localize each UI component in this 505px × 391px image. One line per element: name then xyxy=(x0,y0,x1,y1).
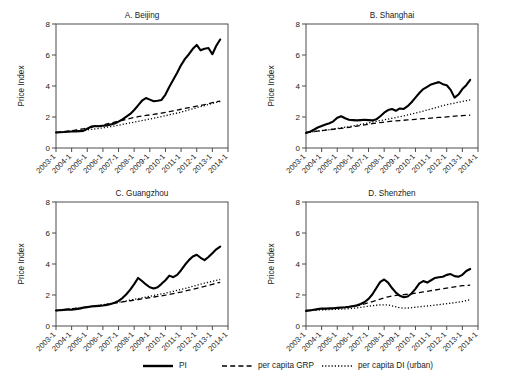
panel-title: D. Shenzhen xyxy=(368,189,416,198)
y-tick-label: 4 xyxy=(296,82,301,91)
panel-title: C. Guangzhou xyxy=(116,189,169,198)
y-tick-label: 6 xyxy=(46,51,51,60)
y-tick-label: 2 xyxy=(296,113,301,122)
y-tick-label: 2 xyxy=(46,291,51,300)
legend-grp-label: per capita GRP xyxy=(258,361,315,370)
panel-title: A. Beijing xyxy=(125,11,160,20)
panel-3: C. Guangzhou02468Price Index2003-12004-1… xyxy=(17,189,229,353)
y-tick-label: 0 xyxy=(46,144,51,153)
y-tick-label: 4 xyxy=(46,82,51,91)
panel-2: B. Shanghai02468Price Index2003-12004-12… xyxy=(267,11,479,175)
panel-title: B. Shanghai xyxy=(370,11,415,20)
y-tick-label: 2 xyxy=(46,113,51,122)
y-tick-label: 2 xyxy=(296,291,301,300)
chart-legend: PIper capita GRPper capita DI (urban) xyxy=(143,361,433,370)
y-tick-label: 6 xyxy=(296,229,301,238)
y-tick-label: 0 xyxy=(46,322,51,331)
series-line-dashed xyxy=(306,285,470,310)
series-line-dashed xyxy=(306,115,470,132)
series-line-solid xyxy=(56,247,220,311)
y-tick-label: 6 xyxy=(296,51,301,60)
figure-container: A. Beijing02468Price Index2003-12004-120… xyxy=(0,0,505,391)
series-line-dotted xyxy=(56,280,220,311)
panel-4: D. Shenzhen02468Price Index2003-12004-12… xyxy=(267,189,479,353)
legend-pi-label: PI xyxy=(179,361,187,370)
legend-di-label: per capita DI (urban) xyxy=(358,361,433,370)
y-tick-label: 8 xyxy=(296,198,301,207)
y-axis-label: Price Index xyxy=(267,66,276,107)
y-tick-label: 0 xyxy=(296,144,301,153)
y-axis-label: Price Index xyxy=(17,244,26,285)
y-axis-label: Price Index xyxy=(267,244,276,285)
multi-panel-line-chart: A. Beijing02468Price Index2003-12004-120… xyxy=(0,0,505,391)
y-tick-label: 8 xyxy=(46,198,51,207)
series-line-solid xyxy=(56,40,220,133)
y-tick-label: 8 xyxy=(296,20,301,29)
y-tick-label: 4 xyxy=(46,260,51,269)
y-tick-label: 4 xyxy=(296,260,301,269)
panel-1: A. Beijing02468Price Index2003-12004-120… xyxy=(17,11,229,175)
series-line-dashed xyxy=(56,282,220,310)
y-tick-label: 6 xyxy=(46,229,51,238)
y-axis-label: Price Index xyxy=(17,66,26,107)
series-line-solid xyxy=(306,80,470,133)
series-line-solid xyxy=(306,269,470,311)
series-line-dotted xyxy=(306,100,470,133)
y-tick-label: 0 xyxy=(296,322,301,331)
y-tick-label: 8 xyxy=(46,20,51,29)
